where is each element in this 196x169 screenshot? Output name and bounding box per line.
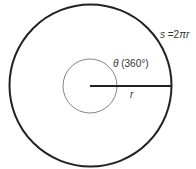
angle-label: θ (360°) (113, 58, 149, 69)
circle-diagram: s =2πr θ (360°) r (0, 0, 196, 169)
arc-length-r: r (186, 29, 190, 40)
radius-label: r (130, 89, 134, 100)
arc-length-eq: =2 (165, 29, 180, 40)
angle-value: (360°) (118, 58, 148, 69)
arc-length-label: s =2πr (160, 29, 190, 40)
